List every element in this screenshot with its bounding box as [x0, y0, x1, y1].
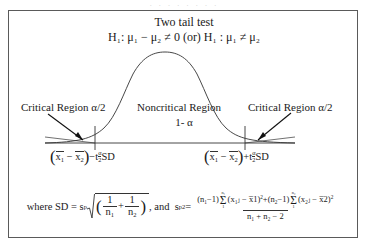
figure-title: Two tail test	[0, 16, 368, 29]
equals-sign: =	[185, 201, 191, 212]
lower-confidence-limit-label: (x1 − x2)−tα2SD	[50, 148, 115, 166]
close-paren: )	[140, 197, 146, 216]
radicand: (1n1+1n2)	[95, 193, 149, 219]
sd-right: SD	[256, 151, 269, 162]
numerator-one: 1	[127, 195, 138, 206]
one-over-n2: 1n2	[125, 195, 140, 218]
hypothesis-statement: H₁: μ₁ − μ₂ ≠ 0 (or) H₁ : μ₁ ≠ μ₂	[0, 31, 368, 44]
denominator-n2: n2	[125, 206, 140, 219]
n2-paren: (n	[268, 194, 275, 204]
lower-limit-expression: (x1 − x2)−tα2SD	[50, 148, 115, 166]
term-1: (x₁ⱼ − x̅1)	[228, 194, 261, 204]
noncritical-region-value: 1- α	[0, 117, 368, 129]
noncritical-region-label: Noncritical Region	[137, 102, 221, 114]
minus-operator: −	[64, 151, 75, 162]
radical-sign	[87, 193, 95, 219]
xbar-1: x1	[56, 151, 65, 163]
square-root: (1n1+1n2)	[87, 193, 149, 219]
clipped-top-text: · · · · · · · ·	[0, 0, 368, 8]
hypothesis-text: H₁: μ₁ − μ₂ ≠ 0 (or) H₁ : μ₁ ≠ μ₂	[108, 30, 260, 44]
upper-confidence-limit-label: (x1 − x2)+tα2SD	[204, 148, 269, 166]
open-paren: (	[96, 197, 102, 216]
variance-denominator: n₁ + n₂ − 2	[243, 210, 288, 222]
sum-lower-2: 1	[293, 205, 295, 209]
variance-numerator: (n1−1)n₁Σ1(x₁ⱼ − x̅1)2+(n2−1)n₂Σ1(x₂ⱼ − …	[193, 191, 337, 210]
critical-region-left-label: Critical Region α/2	[21, 102, 106, 114]
sd-left: SD	[102, 151, 115, 162]
statistics-figure: · · · · · · · · Two tail test H₁: μ₁ − μ…	[0, 0, 368, 248]
xbar-2: x2	[75, 151, 84, 163]
and-connector: , and	[149, 201, 169, 212]
denominator-n1: n1	[103, 206, 118, 219]
where-sd-lead: where SD =	[27, 201, 77, 212]
xbar-2: x2	[229, 151, 238, 163]
one-over-n1: 1n1	[103, 195, 118, 218]
summation-2: n₂Σ1	[290, 191, 297, 209]
critical-region-right-label: Critical Region α/2	[248, 102, 333, 114]
xbar-1: x1	[210, 151, 219, 163]
pooled-sd-formula: where SD = sp(1n1+1n2), and sp2= (n1−1)n…	[8, 191, 358, 222]
upper-limit-expression: (x1 − x2)+tα2SD	[204, 148, 269, 166]
sd-definition: where SD = sp(1n1+1n2), and sp2= (n1−1)n…	[27, 191, 340, 222]
sum-lower-1: 1	[222, 205, 224, 209]
numerator-one: 1	[104, 195, 115, 206]
minus-operator: −	[218, 151, 229, 162]
pooled-variance-fraction: (n1−1)n₁Σ1(x₁ⱼ − x̅1)2+(n2−1)n₂Σ1(x₂ⱼ − …	[193, 191, 337, 222]
plus-operator: +	[118, 200, 124, 211]
term-2: (x₂ⱼ − x̅2)	[298, 194, 331, 204]
summation-1: n₁Σ1	[220, 191, 227, 209]
